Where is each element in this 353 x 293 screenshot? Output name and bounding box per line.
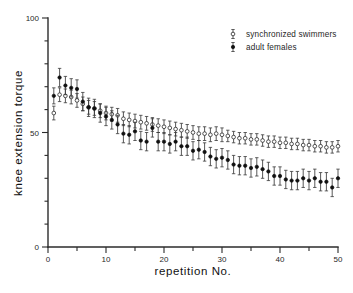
x-tick-label: 20	[160, 255, 169, 264]
data-point-filled	[215, 157, 218, 160]
data-point-filled	[203, 150, 206, 153]
data-point-open	[261, 139, 265, 143]
data-point-open	[290, 142, 294, 146]
data-point-filled	[325, 180, 328, 183]
data-point-open	[180, 128, 184, 132]
data-point-open	[226, 134, 230, 138]
data-point-open	[238, 136, 242, 140]
data-point-filled	[162, 140, 165, 143]
data-point-open	[127, 118, 131, 122]
legend-label: adult females	[246, 43, 297, 52]
data-point-filled	[99, 111, 102, 114]
data-point-open	[330, 146, 334, 150]
data-point-open	[58, 93, 62, 97]
data-point-filled	[220, 156, 223, 159]
data-point-open	[284, 141, 288, 145]
data-point-filled	[139, 139, 142, 142]
data-point-open	[336, 144, 340, 148]
data-point-filled	[93, 107, 96, 110]
data-point-filled	[313, 177, 316, 180]
data-point-open	[319, 144, 323, 148]
data-point-open	[220, 133, 224, 137]
data-point-filled	[336, 177, 339, 180]
x-tick-label: 30	[218, 255, 227, 264]
data-point-filled	[290, 179, 293, 182]
data-point-filled	[191, 149, 194, 152]
x-tick-label: 40	[276, 255, 285, 264]
data-point-open	[75, 99, 79, 103]
data-point-filled	[244, 164, 247, 167]
data-point-open	[209, 133, 213, 137]
y-axis-ticks	[42, 18, 48, 247]
data-point-open	[139, 120, 143, 124]
data-point-open	[278, 141, 282, 145]
data-point-filled	[157, 140, 160, 143]
data-point-filled	[81, 100, 84, 103]
x-axis-ticks	[48, 247, 338, 253]
data-point-open	[232, 135, 236, 139]
data-point-filled	[58, 76, 61, 79]
data-point-filled	[331, 186, 334, 189]
x-axis-tick-labels: 01020304050	[46, 255, 343, 264]
data-point-filled	[238, 164, 241, 167]
data-point-filled	[64, 84, 67, 87]
data-point-open	[174, 127, 178, 131]
data-point-filled	[180, 145, 183, 148]
series-synchronized-swimmers	[52, 88, 340, 153]
y-axis-tick-labels: 050100	[26, 14, 40, 252]
data-point-filled	[104, 115, 107, 118]
data-point-filled	[116, 123, 119, 126]
x-axis-group: 01020304050	[46, 247, 343, 264]
data-point-filled	[87, 106, 90, 109]
data-point-filled	[128, 133, 131, 136]
data-point-open	[243, 136, 247, 140]
data-point-open	[272, 140, 276, 144]
data-point-filled	[197, 148, 200, 151]
data-point-filled	[273, 174, 276, 177]
data-point-filled	[267, 170, 270, 173]
data-point-filled	[174, 140, 177, 143]
data-point-filled	[151, 126, 154, 129]
chart-figure: 050100 01020304050 synchronized swimmers…	[0, 0, 353, 293]
data-point-filled	[307, 179, 310, 182]
data-point-open	[162, 125, 166, 129]
data-point-filled	[168, 142, 171, 145]
x-axis-title: repetition No.	[155, 265, 232, 277]
legend-marker-filled	[231, 45, 234, 48]
data-point-filled	[75, 87, 78, 90]
data-point-filled	[52, 94, 55, 97]
data-point-filled	[70, 86, 73, 89]
data-point-filled	[278, 174, 281, 177]
scatter-plot-canvas: 050100 01020304050 synchronized swimmers…	[0, 0, 353, 293]
data-point-open	[122, 117, 126, 121]
data-point-open	[214, 132, 218, 136]
data-point-filled	[110, 118, 113, 121]
data-point-filled	[145, 140, 148, 143]
x-tick-label: 0	[46, 255, 51, 264]
data-point-open	[313, 144, 317, 148]
data-point-open	[185, 130, 189, 134]
data-point-filled	[249, 166, 252, 169]
data-point-open	[255, 138, 259, 142]
data-point-open	[52, 111, 56, 115]
data-point-filled	[255, 165, 258, 168]
data-point-open	[191, 131, 195, 135]
y-axis-group: 050100	[26, 14, 48, 252]
data-point-open	[325, 146, 329, 150]
x-tick-label: 10	[102, 255, 111, 264]
data-point-filled	[302, 177, 305, 180]
data-point-open	[307, 143, 311, 147]
data-point-open	[301, 143, 305, 147]
y-tick-label: 100	[26, 14, 40, 23]
legend-marker-open	[231, 32, 235, 36]
data-point-filled	[226, 158, 229, 161]
data-point-filled	[186, 145, 189, 148]
data-point-open	[267, 140, 271, 144]
chart-legend: synchronized swimmersadult females	[231, 30, 336, 53]
data-point-filled	[296, 179, 299, 182]
data-point-open	[249, 138, 253, 142]
data-point-open	[296, 142, 300, 146]
data-point-open	[203, 132, 207, 136]
data-point-filled	[122, 132, 125, 135]
data-point-open	[197, 132, 201, 136]
